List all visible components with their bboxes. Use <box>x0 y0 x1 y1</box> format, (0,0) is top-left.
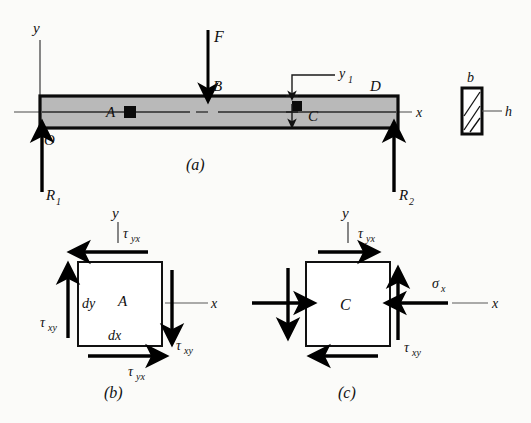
panel-c-normal-stress-label: σ <box>432 276 440 291</box>
cross-section-rect <box>462 88 482 134</box>
panel-a-caption: (a) <box>186 156 205 174</box>
y1-dimension-subscript: 1 <box>348 74 353 85</box>
cross-section-width-label: b <box>467 70 474 85</box>
panel-b-dy-label: dy <box>82 296 96 311</box>
panel-c-x-axis-label: x <box>491 296 499 311</box>
panel-b-x-axis-label: x <box>210 296 218 311</box>
panel-b-top-shear-subscript: yx <box>130 233 140 244</box>
cross-section-height-label: h <box>505 104 512 119</box>
figure-container: y x F B A C <box>0 0 531 423</box>
element-a-marker <box>124 106 136 118</box>
point-b-label: B <box>213 78 222 94</box>
reaction-left-subscript: 1 <box>56 196 61 207</box>
point-c-label: C <box>308 108 319 124</box>
panel-a: y x F B A C <box>14 20 423 207</box>
panel-b-top-shear-label: τ <box>123 226 129 241</box>
panel-b-bottom-shear-label: τ <box>128 364 134 379</box>
applied-force-label: F <box>213 28 224 45</box>
panel-c-y-axis-label: y <box>340 205 349 221</box>
panel-b-caption: (b) <box>104 384 123 402</box>
panel-b-element-label: A <box>117 293 128 309</box>
panel-b-dx-label: dx <box>108 328 122 343</box>
reaction-right-subscript: 2 <box>409 196 414 207</box>
panel-b-y-axis-label: y <box>110 205 119 221</box>
element-c-marker <box>292 101 302 111</box>
panel-c-element-label: C <box>340 296 351 313</box>
panel-c-shear-label: τ <box>404 340 410 355</box>
reaction-left-label: R <box>45 187 55 203</box>
panel-b-right-shear-subscript: xy <box>183 345 193 356</box>
panel-c: y x τ yx τ xy σ x C <box>252 205 499 402</box>
point-d-label: D <box>369 78 381 94</box>
beam-stress-figure: y x F B A C <box>0 0 531 423</box>
panel-c-top-shear-subscript: yx <box>365 233 375 244</box>
panel-c-top-shear-label: τ <box>358 226 364 241</box>
panel-b: y x τ yx τ yx τ xy τ xy dy A d <box>40 205 218 402</box>
reaction-right-label: R <box>398 187 408 203</box>
panel-b-left-shear-label: τ <box>40 315 46 330</box>
y1-leader-line <box>292 75 335 84</box>
cross-section-detail: b h <box>462 70 512 134</box>
panel-b-bottom-shear-subscript: yx <box>135 371 145 382</box>
panel-c-caption: (c) <box>338 384 356 402</box>
panel-a-y-axis-label: y <box>31 20 40 36</box>
y1-dimension-label: y <box>337 66 346 81</box>
point-a-label: A <box>105 104 116 120</box>
panel-b-left-shear-subscript: xy <box>47 322 57 333</box>
panel-c-shear-subscript: xy <box>411 347 421 358</box>
panel-a-x-axis-label: x <box>415 105 423 120</box>
panel-b-right-shear-label: τ <box>176 338 182 353</box>
origin-label: O <box>44 132 55 148</box>
panel-c-normal-stress-subscript: x <box>440 283 446 294</box>
